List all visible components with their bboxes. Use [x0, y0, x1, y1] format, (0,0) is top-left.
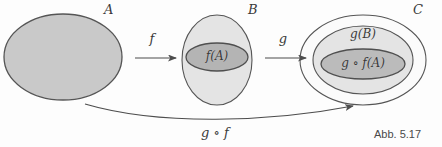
figure-composition-diagram: A B C f(A) g(B) g ∘ f(A) f g g ∘ f Abb. …	[0, 0, 442, 147]
arrow-g-label: g	[279, 32, 287, 45]
arrow-f-label: f	[150, 32, 155, 45]
arrow-composition-label: g ∘ f	[201, 126, 229, 139]
arrow-composition	[85, 104, 353, 119]
set-b-label: B	[248, 3, 258, 16]
region-f-of-a-label: f(A)	[206, 50, 228, 62]
region-g-of-b-label: g(B)	[350, 28, 376, 40]
region-g-of-f-of-a-label: g ∘ f(A)	[341, 57, 385, 69]
set-a-ellipse	[4, 14, 122, 100]
set-a-label: A	[104, 3, 113, 16]
figure-caption: Abb. 5.17	[374, 128, 421, 140]
set-c-label: C	[413, 3, 423, 16]
